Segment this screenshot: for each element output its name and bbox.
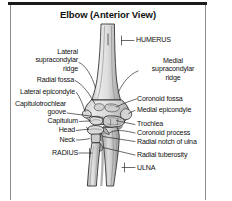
label-radius: RADIUS <box>18 149 78 157</box>
label-radial-fossa: Radial fossa <box>8 76 74 84</box>
label-medial-epicondyle: Medial epicondyle <box>137 106 215 114</box>
anatomy-figure: Elbow (Anterior View) <box>0 0 232 201</box>
label-radial-tuberosity: Radial tuberosity <box>137 151 221 159</box>
label-line: ridge <box>139 74 207 82</box>
label-capitulotrochlear-groove: Capitulotrochlear goove <box>2 100 66 117</box>
label-line: ridge <box>8 65 78 73</box>
label-line: Capitulotrochlear <box>2 100 66 108</box>
label-line: goove <box>2 108 66 116</box>
label-radial-notch-of-ulna: Radial notch of ulna <box>137 138 225 146</box>
label-coronoid-fossa: Coronoid fossa <box>137 95 209 103</box>
label-line: Medial <box>139 57 207 65</box>
label-neck: Neck <box>18 136 75 144</box>
label-humerus: HUMERUS <box>136 36 206 44</box>
label-lateral-supracondylar-ridge: Lateral supracondylar ridge <box>8 48 78 73</box>
label-line: supracondylar <box>8 56 78 64</box>
humerus-bone <box>82 24 131 131</box>
label-line: supracondylar <box>139 65 207 73</box>
label-lateral-epicondyle: Lateral epicondyle <box>2 88 75 96</box>
label-ulna: ULNA <box>137 164 197 172</box>
label-capitulum: Capitulum <box>18 117 78 125</box>
label-line: Lateral <box>8 48 78 56</box>
label-medial-supracondylar-ridge: Medial supracondylar ridge <box>139 57 207 82</box>
label-coronoid-process: Coronoid process <box>137 129 215 137</box>
label-head: Head <box>18 126 75 134</box>
label-trochlea: Trochlea <box>137 120 197 128</box>
